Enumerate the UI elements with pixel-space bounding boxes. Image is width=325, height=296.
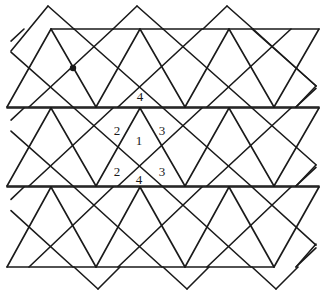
region-label: 4	[137, 89, 144, 104]
region-label: 2	[114, 164, 121, 179]
region-label: 4	[136, 172, 143, 187]
marked-vertex-dot	[70, 65, 76, 71]
region-label: 1	[136, 133, 143, 148]
tiling-diagram: 4213243	[0, 0, 325, 296]
region-label: 2	[114, 123, 121, 138]
region-label: 3	[159, 123, 166, 138]
region-label: 3	[159, 164, 166, 179]
